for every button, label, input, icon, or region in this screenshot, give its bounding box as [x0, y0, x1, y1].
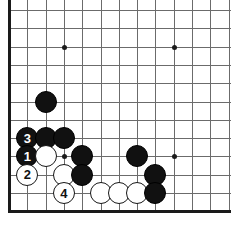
stone-black [35, 91, 57, 113]
stone-black [126, 145, 148, 167]
stone-black [144, 182, 166, 204]
stone-black [71, 164, 93, 186]
stone-move-number: 3 [24, 131, 31, 144]
stone-move-number: 4 [60, 186, 67, 199]
board-stones: 3124 [0, 0, 231, 225]
stone-white [35, 145, 57, 167]
stone-move-number: 1 [24, 149, 31, 162]
go-board: 3124 [0, 0, 231, 225]
stone-white-move-2: 2 [16, 164, 38, 186]
stone-black [53, 127, 75, 149]
stone-move-number: 2 [24, 168, 31, 181]
stone-white-move-4: 4 [53, 182, 75, 204]
